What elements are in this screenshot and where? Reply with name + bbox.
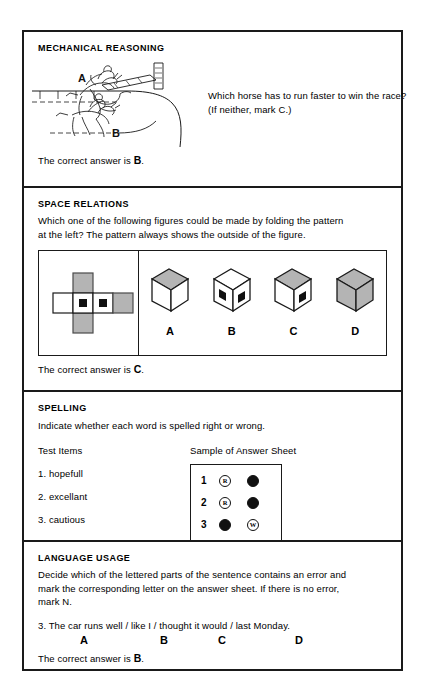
bubble-letter: R xyxy=(220,477,230,484)
test-sample-page: MECHANICAL REASONING xyxy=(22,30,403,671)
cube-option-a[interactable]: A xyxy=(141,265,199,337)
test-item-1: 1. hopefull xyxy=(38,468,190,479)
test-item-word: cautious xyxy=(49,514,85,525)
space-relations-figure-box: A B xyxy=(38,250,387,356)
cube-options-panel: A B xyxy=(139,251,386,355)
test-item-number: 2. xyxy=(38,491,46,502)
cube-label-a: A xyxy=(141,325,199,337)
cube-label-c: C xyxy=(264,325,322,337)
spelling-columns: Test Items 1. hopefull 2. excellant 3. c… xyxy=(38,445,387,542)
cube-d-svg xyxy=(329,265,381,317)
answer-sheet-header: Sample of Answer Sheet xyxy=(190,445,387,456)
bubble-letter: W xyxy=(248,521,258,528)
section-title-space-relations: SPACE RELATIONS xyxy=(38,188,387,209)
answer-row-number: 1 xyxy=(201,475,219,486)
part-letter-c: C xyxy=(218,634,226,646)
language-usage-answer: The correct answer is B. xyxy=(38,652,387,664)
cube-c-svg xyxy=(267,265,319,317)
instructions-line-2: mark the corresponding letter on the ans… xyxy=(38,582,387,596)
instructions-line-2: at the left? The pattern always shows th… xyxy=(38,228,387,242)
test-item-word: hopefull xyxy=(49,468,83,479)
bubble-right-2[interactable]: R xyxy=(219,497,231,509)
answer-sheet-box: 1 R 2 R 3 W xyxy=(190,464,282,542)
bubble-wrong-3[interactable]: W xyxy=(247,519,259,531)
bubble-right-3[interactable] xyxy=(219,519,231,531)
mechanical-reasoning-answer: The correct answer is B. xyxy=(38,154,387,166)
answer-row-number: 2 xyxy=(201,497,219,508)
answer-prefix: The correct answer is xyxy=(38,364,134,375)
section-title-language-usage: LANGUAGE USAGE xyxy=(38,542,387,563)
cube-label-d: D xyxy=(326,325,384,337)
answer-prefix: The correct answer is xyxy=(38,653,134,664)
section-space-relations: SPACE RELATIONS Which one of the followi… xyxy=(24,188,401,392)
instructions-line-1: Which one of the following figures could… xyxy=(38,214,387,228)
horse-label-a: A xyxy=(78,72,86,84)
horse-race-svg: A B xyxy=(32,55,202,151)
part-letter-a: A xyxy=(80,634,88,646)
bubble-letter: R xyxy=(220,499,230,506)
cube-option-c[interactable]: C xyxy=(264,265,322,337)
test-item-number: 1. xyxy=(38,468,46,479)
section-mechanical-reasoning: MECHANICAL REASONING xyxy=(24,32,401,188)
answer-suffix: . xyxy=(141,155,144,166)
spelling-instructions: Indicate whether each word is spelled ri… xyxy=(38,419,387,433)
cube-b-svg xyxy=(206,265,258,317)
test-item-3: 3. cautious xyxy=(38,514,190,525)
cube-option-b[interactable]: B xyxy=(203,265,261,337)
test-item-2: 2. excellant xyxy=(38,491,190,502)
test-items-header: Test Items xyxy=(38,445,190,456)
horse-label-b: B xyxy=(112,127,120,139)
cube-option-d[interactable]: D xyxy=(326,265,384,337)
test-item-number: 3. xyxy=(38,514,46,525)
language-usage-sentence: 3. The car runs well / like I / thought … xyxy=(38,620,387,631)
question-line-1: Which horse has to run faster to win the… xyxy=(208,89,406,103)
answer-sheet-row: 2 R xyxy=(191,492,281,514)
space-relations-instructions: Which one of the following figures could… xyxy=(38,214,387,241)
bubble-wrong-1[interactable] xyxy=(247,475,259,487)
language-usage-part-letters: A B C D xyxy=(38,634,387,651)
answer-prefix: The correct answer is xyxy=(38,155,134,166)
cube-label-b: B xyxy=(203,325,261,337)
mechanical-reasoning-question: Which horse has to run faster to win the… xyxy=(202,55,406,116)
section-spelling: SPELLING Indicate whether each word is s… xyxy=(24,392,401,542)
test-item-word: excellant xyxy=(49,491,87,502)
section-title-mechanical-reasoning: MECHANICAL REASONING xyxy=(38,32,387,53)
bubble-right-1[interactable]: R xyxy=(219,475,231,487)
section-language-usage: LANGUAGE USAGE Decide which of the lette… xyxy=(24,542,401,669)
horse-race-illustration: A B xyxy=(32,55,202,151)
instructions-line-3: mark N. xyxy=(38,595,387,609)
answer-sheet-row: 3 W xyxy=(191,514,281,536)
question-line-2: (If neither, mark C.) xyxy=(208,103,406,117)
answer-suffix: . xyxy=(141,653,144,664)
space-relations-answer: The correct answer is C. xyxy=(38,363,387,375)
cube-a-svg xyxy=(144,265,196,317)
answer-suffix: . xyxy=(141,364,144,375)
instructions-line-1: Decide which of the lettered parts of th… xyxy=(38,568,387,582)
language-usage-instructions: Decide which of the lettered parts of th… xyxy=(38,568,387,609)
bubble-wrong-2[interactable] xyxy=(247,497,259,509)
mechanical-reasoning-content: A B Which horse has to run faster to win… xyxy=(38,55,387,151)
answer-sheet-row: 1 R xyxy=(191,470,281,492)
test-items-column: Test Items 1. hopefull 2. excellant 3. c… xyxy=(38,445,190,542)
horse-b-figure xyxy=(56,94,120,137)
part-letter-d: D xyxy=(295,634,303,646)
unfolded-pattern-svg xyxy=(39,251,138,354)
answer-row-number: 3 xyxy=(201,519,219,530)
section-title-spelling: SPELLING xyxy=(38,392,387,413)
unfolded-pattern-panel xyxy=(39,251,139,355)
answer-sheet-column: Sample of Answer Sheet 1 R 2 R 3 xyxy=(190,445,387,542)
part-letter-b: B xyxy=(160,634,168,646)
